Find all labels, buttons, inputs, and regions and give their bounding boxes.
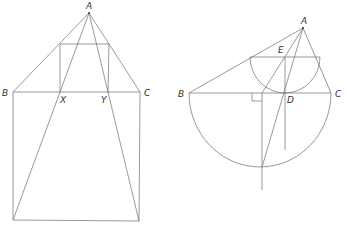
side-ab	[189, 28, 303, 93]
label-c: C	[144, 88, 151, 98]
large-semicircle	[189, 93, 331, 167]
right-figure: A B C D E	[178, 16, 342, 190]
geometry-diagram: A B C X Y A B C D E	[0, 0, 349, 232]
label-b: B	[2, 88, 8, 98]
label-y: Y	[101, 95, 108, 105]
inscribed-square-right	[108, 44, 109, 92]
label-e: E	[278, 45, 284, 55]
label-c: C	[335, 89, 342, 99]
label-a: A	[300, 16, 307, 26]
label-d: D	[287, 95, 294, 105]
point-a	[302, 27, 304, 29]
point-a	[88, 12, 90, 14]
label-b: B	[178, 89, 184, 99]
left-figure: A B C X Y	[2, 1, 151, 221]
square-bottom	[13, 220, 139, 221]
label-x: X	[59, 95, 67, 105]
side-ac	[303, 28, 331, 93]
line-a-to-foot	[262, 28, 303, 93]
label-a: A	[85, 1, 92, 11]
side-ac	[89, 13, 140, 92]
square-right-side	[139, 92, 140, 221]
right-angle-mark	[252, 93, 262, 101]
side-ab	[13, 13, 89, 92]
